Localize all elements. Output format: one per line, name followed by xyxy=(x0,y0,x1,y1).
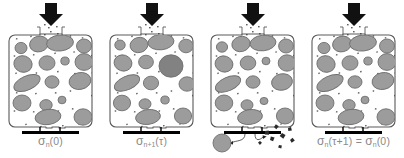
sigma-argument-2: (0) xyxy=(377,135,390,147)
grain xyxy=(215,95,233,111)
grain xyxy=(348,76,362,88)
sigma-argument: (τ+1) = xyxy=(328,135,365,147)
feed-speck xyxy=(145,34,147,35)
grain xyxy=(241,100,253,110)
feed-speck xyxy=(360,33,362,34)
sigma-symbol: σ xyxy=(38,134,46,148)
grain xyxy=(342,56,358,70)
grain-speck xyxy=(338,93,340,95)
grain xyxy=(174,108,191,124)
feed-speck xyxy=(246,24,248,25)
grain-speck xyxy=(158,71,160,73)
grain xyxy=(246,76,260,88)
feed-speck xyxy=(353,31,355,32)
grain-speck xyxy=(295,106,297,108)
stage-panel-1: σn(0) xyxy=(0,0,101,158)
grain-speck xyxy=(319,92,321,94)
sigma-subscript: n+1 xyxy=(143,141,155,148)
grain xyxy=(45,76,59,88)
grain-speck xyxy=(33,54,35,56)
feed-speck xyxy=(44,24,46,25)
grain-speck xyxy=(117,92,119,94)
grain-speck xyxy=(57,71,59,73)
grain xyxy=(161,96,169,104)
grain-speck xyxy=(358,92,360,94)
grain-speck xyxy=(276,73,278,75)
ejected-fragment xyxy=(290,137,296,143)
grain-speck xyxy=(163,125,165,126)
feed-speck xyxy=(347,24,349,25)
feed-speck xyxy=(259,33,261,34)
feed-speck xyxy=(246,34,248,35)
grain xyxy=(318,42,330,53)
grain xyxy=(115,40,125,50)
grain xyxy=(216,42,227,52)
grain xyxy=(40,100,52,111)
feed-speck xyxy=(347,34,349,35)
grain-speck xyxy=(319,38,321,40)
feed-arrow-down-icon xyxy=(342,3,366,26)
grain xyxy=(58,96,66,104)
feed-speck xyxy=(151,31,153,32)
grain xyxy=(377,109,395,125)
sigma-argument: (0) xyxy=(50,135,63,147)
feed-arrow-down-icon xyxy=(140,3,164,26)
feed-speck xyxy=(250,27,252,28)
grain-speck xyxy=(134,111,136,113)
grain-speck xyxy=(35,93,37,95)
grain-speck xyxy=(257,92,259,94)
grain xyxy=(343,100,355,111)
ejected-fragment xyxy=(258,141,263,146)
stage-panel-4: σn(τ+1) = σn(0) xyxy=(303,0,404,158)
grain xyxy=(15,42,27,53)
grain-speck xyxy=(274,108,276,110)
stage-panel-2: σn+1(τ) xyxy=(101,0,202,158)
feed-arrow-down-icon xyxy=(241,3,265,26)
grain-speck xyxy=(55,92,57,94)
sigma-argument: (τ) xyxy=(155,135,167,147)
grain-speck xyxy=(336,111,338,113)
stage-panel-3 xyxy=(202,0,303,158)
grain xyxy=(179,39,193,53)
feed-speck xyxy=(48,27,50,28)
grain xyxy=(380,39,395,53)
grain xyxy=(139,55,154,69)
ejected-fragment xyxy=(269,135,276,142)
grain-speck xyxy=(235,111,237,113)
feed-speck xyxy=(252,31,254,32)
grain xyxy=(279,39,294,53)
grain-speck xyxy=(365,125,367,126)
grain-speck xyxy=(194,106,196,108)
grain-speck xyxy=(134,54,136,56)
feed-speck xyxy=(351,27,353,28)
grain-speck xyxy=(360,71,362,73)
grain-speck xyxy=(218,38,220,40)
feed-speck xyxy=(50,31,52,32)
grain xyxy=(361,96,369,104)
grain-speck xyxy=(16,92,18,94)
grain xyxy=(61,57,69,65)
feed-speck xyxy=(57,33,59,34)
feed-arrow-down-icon xyxy=(39,3,63,26)
granular-cycle-figure: σn(0)σn+1(τ)σn(τ+1) = σn(0) xyxy=(0,0,404,158)
grain-speck xyxy=(16,38,18,40)
feed-speck xyxy=(44,34,46,35)
grain-speck xyxy=(156,92,158,94)
grain xyxy=(113,95,130,111)
grain-speck xyxy=(62,125,64,126)
grain-speck xyxy=(396,106,398,108)
feed-speck xyxy=(157,26,159,27)
grain xyxy=(74,109,92,125)
grain xyxy=(378,54,396,71)
grain-speck xyxy=(375,108,377,110)
grain xyxy=(316,95,334,111)
feed-speck xyxy=(56,26,58,27)
grain-speck xyxy=(259,71,261,73)
grain xyxy=(240,56,256,70)
grain-speck xyxy=(136,93,138,95)
grain xyxy=(13,95,31,111)
grain-aggregate xyxy=(159,55,183,77)
grain xyxy=(278,55,296,71)
grain xyxy=(139,99,151,109)
grain xyxy=(77,39,92,53)
